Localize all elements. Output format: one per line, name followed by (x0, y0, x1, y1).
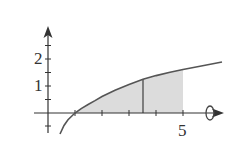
shaded-region (75, 70, 183, 114)
diagram: 2 1 5 (0, 0, 248, 147)
y-label-2: 2 (34, 49, 43, 68)
diagram-svg: 2 1 5 (0, 0, 248, 147)
y-label-1: 1 (34, 76, 43, 95)
x-label-5: 5 (178, 121, 187, 140)
